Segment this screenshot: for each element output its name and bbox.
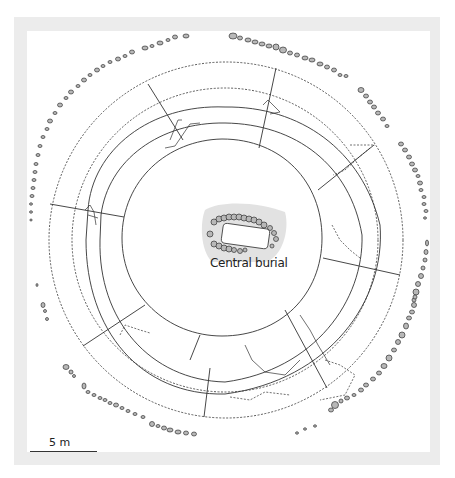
trench-trace <box>300 315 330 365</box>
section-line <box>323 258 400 275</box>
trench-trace <box>320 360 355 400</box>
scale-label: 5 m <box>49 436 70 449</box>
trench-trace <box>230 392 290 400</box>
central-burial <box>202 203 287 262</box>
central-burial-label: Central burial <box>210 256 288 270</box>
trench-trace <box>332 225 360 258</box>
section-line <box>190 335 200 360</box>
trench-trace <box>120 325 150 335</box>
section-line <box>318 145 374 190</box>
section-line <box>259 68 276 148</box>
section-line <box>50 204 124 217</box>
site-plan <box>0 0 455 478</box>
trench-trace <box>165 120 200 148</box>
trench-trace <box>245 345 300 375</box>
scale-bar <box>30 451 97 452</box>
section-line <box>204 368 210 417</box>
